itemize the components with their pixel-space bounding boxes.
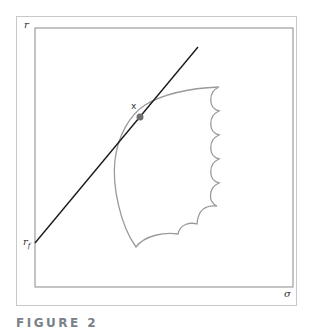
tangency-point-marker (137, 114, 144, 121)
x-axis-label: σ (284, 288, 291, 299)
tangency-point-label: x (131, 101, 136, 111)
y-axis-label: r (24, 19, 29, 30)
figure-caption: FIGURE 2 (16, 316, 98, 330)
diagram-canvas (0, 0, 316, 330)
plot-axes-box (35, 28, 293, 287)
risk-free-rate-label-sub: f (28, 242, 31, 250)
capital-market-line (35, 47, 198, 243)
feasible-set-frontier (114, 87, 219, 247)
risk-free-rate-label: rf (23, 236, 30, 250)
